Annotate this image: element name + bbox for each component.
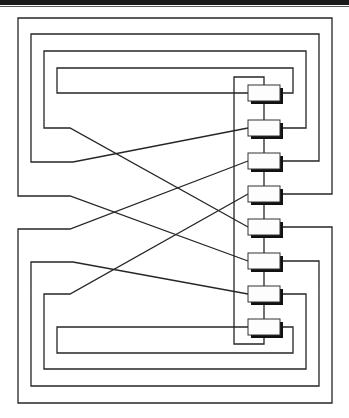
- wire-loop-1-top: [18, 18, 332, 261]
- node-7: [248, 286, 283, 305]
- node-4: [248, 186, 283, 205]
- node-2: [248, 120, 283, 139]
- wiring-diagram: [0, 0, 349, 418]
- node-1: [248, 85, 283, 104]
- node-6: [248, 253, 283, 272]
- node-5: [248, 219, 283, 238]
- node-3: [248, 153, 283, 172]
- wire-loop-1-bottom: [18, 161, 332, 403]
- node-8: [248, 319, 283, 338]
